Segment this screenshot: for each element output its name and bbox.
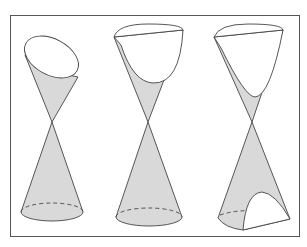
conic-sections-figure	[0, 0, 307, 247]
